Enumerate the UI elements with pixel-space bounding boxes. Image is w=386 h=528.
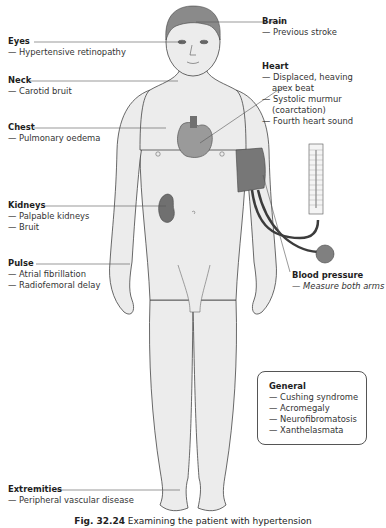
label-title: Brain xyxy=(262,16,337,27)
caption-text: Examining the patient with hypertension xyxy=(128,516,312,526)
label-item: — Acromegaly xyxy=(269,403,366,414)
body-figure xyxy=(110,8,277,511)
label-item: — Palpable kidneys xyxy=(8,211,89,222)
label-item: — Measure both arms xyxy=(292,281,384,292)
label-title: Chest xyxy=(8,122,100,133)
caption-number: Fig. 32.24 xyxy=(74,516,125,526)
manometer xyxy=(309,144,323,214)
bp-cuff xyxy=(236,148,265,192)
label-item: — Xanthelasmata xyxy=(269,425,366,436)
label-item: (coarctation) xyxy=(262,105,353,116)
label-item: apex beat xyxy=(262,83,353,94)
figure-caption: Fig. 32.24 Examining the patient with hy… xyxy=(0,516,386,526)
label-eyes: Eyes — Hypertensive retinopathy xyxy=(8,36,126,58)
label-extremities: Extremities — Peripheral vascular diseas… xyxy=(8,484,134,506)
label-general: General — Cushing syndrome — Acromegaly … xyxy=(258,372,366,436)
label-item: — Neurofibromatosis xyxy=(269,414,366,425)
aorta xyxy=(190,116,197,128)
label-item: — Fourth heart sound xyxy=(262,116,353,127)
label-item: — Carotid bruit xyxy=(8,86,72,97)
bp-bulb xyxy=(316,245,334,263)
label-item: — Systolic murmur xyxy=(262,94,353,105)
label-brain: Brain — Previous stroke xyxy=(262,16,337,38)
label-kidneys: Kidneys — Palpable kidneys — Bruit xyxy=(8,200,89,233)
label-heart: Heart — Displaced, heaving apex beat — S… xyxy=(262,61,353,127)
label-title: Blood pressure xyxy=(292,270,384,281)
kidney-organ xyxy=(159,194,175,222)
label-item: — Previous stroke xyxy=(262,27,337,38)
label-title: Extremities xyxy=(8,484,134,495)
legs xyxy=(149,300,193,511)
label-item: — Bruit xyxy=(8,222,89,233)
label-title: Kidneys xyxy=(8,200,89,211)
label-item: — Displaced, heaving xyxy=(262,72,353,83)
label-neck: Neck — Carotid bruit xyxy=(8,75,72,97)
label-blood-pressure: Blood pressure — Measure both arms xyxy=(292,270,384,292)
label-pulse: Pulse — Atrial fibrillation — Radiofemor… xyxy=(8,258,100,291)
label-title: Pulse xyxy=(8,258,100,269)
label-title: Heart xyxy=(262,61,353,72)
leg-right xyxy=(193,300,237,511)
general-box: General — Cushing syndrome — Acromegaly … xyxy=(257,371,367,445)
label-item: — Hypertensive retinopathy xyxy=(8,47,126,58)
label-item: — Atrial fibrillation xyxy=(8,269,100,280)
label-item: — Peripheral vascular disease xyxy=(8,495,134,506)
label-chest: Chest — Pulmonary oedema xyxy=(8,122,100,144)
label-title: Eyes xyxy=(8,36,126,47)
label-item: — Radiofemoral delay xyxy=(8,280,100,291)
label-title: General xyxy=(269,381,366,392)
label-item: — Cushing syndrome xyxy=(269,392,366,403)
label-title: Neck xyxy=(8,75,72,86)
label-item: — Pulmonary oedema xyxy=(8,133,100,144)
